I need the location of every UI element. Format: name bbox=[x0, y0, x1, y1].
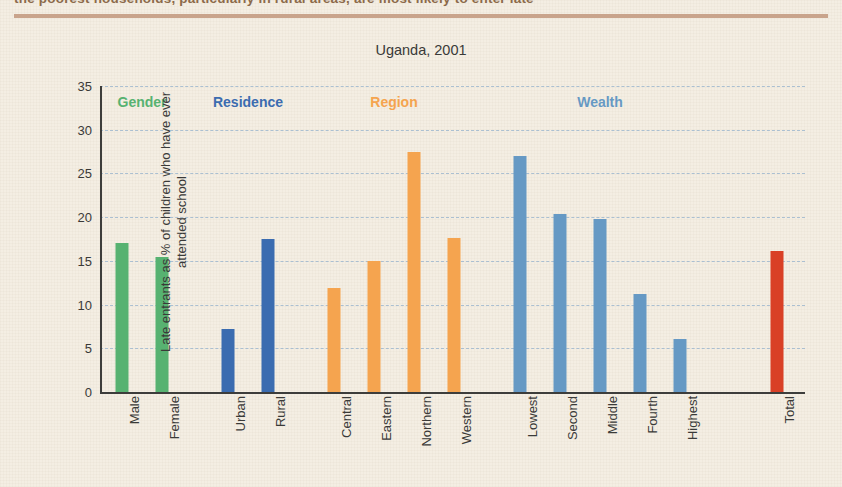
bar-second bbox=[554, 214, 567, 392]
x-tick-label-western: Western bbox=[459, 396, 474, 444]
x-axis-tick-labels: MaleFemaleUrbanRuralCentralEasternNorthe… bbox=[100, 396, 805, 486]
x-tick-label-lowest: Lowest bbox=[525, 396, 540, 437]
gridline bbox=[100, 173, 805, 174]
y-axis-tick-labels: 05101520253035 bbox=[58, 86, 92, 392]
x-tick-label-urban: Urban bbox=[233, 396, 248, 431]
bar-northern bbox=[408, 152, 421, 392]
x-tick-label-northern: Northern bbox=[419, 396, 434, 447]
y-axis-title: Late entrants as % of children who have … bbox=[158, 72, 190, 372]
gridline bbox=[100, 217, 805, 218]
x-tick-label-fourth: Fourth bbox=[645, 396, 660, 434]
bar-middle bbox=[594, 219, 607, 392]
bar-lowest bbox=[514, 156, 527, 392]
y-tick-label: 35 bbox=[60, 79, 92, 94]
gridline bbox=[100, 130, 805, 131]
bar-rural bbox=[262, 239, 275, 392]
bar-male bbox=[116, 243, 129, 392]
bar-urban bbox=[222, 329, 235, 392]
y-axis-line bbox=[100, 86, 102, 392]
x-axis-line bbox=[100, 392, 805, 394]
cut-off-section-heading: the poorest households, particularly in … bbox=[0, 0, 842, 7]
bar-eastern bbox=[368, 261, 381, 392]
x-tick-label-total: Total bbox=[782, 396, 797, 423]
bar-total bbox=[771, 251, 784, 392]
bar-fourth bbox=[634, 294, 647, 392]
x-tick-label-central: Central bbox=[339, 396, 354, 438]
bar-western bbox=[448, 238, 461, 392]
bar-highest bbox=[674, 339, 687, 392]
y-tick-label: 5 bbox=[60, 341, 92, 356]
gridline bbox=[100, 86, 805, 87]
y-tick-label: 25 bbox=[60, 166, 92, 181]
header-rule bbox=[14, 14, 828, 18]
group-header-region: Region bbox=[370, 94, 417, 110]
y-tick-label: 20 bbox=[60, 210, 92, 225]
plot-area: GenderResidenceRegionWealth Late entrant… bbox=[100, 86, 805, 392]
y-tick-label: 15 bbox=[60, 253, 92, 268]
y-tick-label: 0 bbox=[60, 385, 92, 400]
y-tick-label: 30 bbox=[60, 122, 92, 137]
bar-central bbox=[328, 288, 341, 392]
group-header-wealth: Wealth bbox=[577, 94, 623, 110]
x-tick-label-male: Male bbox=[127, 396, 142, 424]
y-tick-label: 10 bbox=[60, 297, 92, 312]
x-tick-label-rural: Rural bbox=[273, 396, 288, 427]
figure-page: the poorest households, particularly in … bbox=[0, 0, 842, 487]
x-tick-label-middle: Middle bbox=[605, 396, 620, 434]
x-tick-label-eastern: Eastern bbox=[379, 396, 394, 441]
chart-title: Uganda, 2001 bbox=[0, 42, 842, 58]
x-tick-label-female: Female bbox=[167, 396, 182, 439]
group-header-residence: Residence bbox=[213, 94, 283, 110]
x-tick-label-highest: Highest bbox=[685, 396, 700, 440]
x-tick-label-second: Second bbox=[565, 396, 580, 440]
